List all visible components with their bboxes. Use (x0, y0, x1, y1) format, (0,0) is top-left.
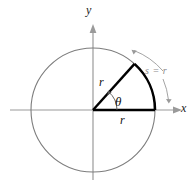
y-axis-label: y (86, 4, 91, 16)
arc-measure-arrow-lower (163, 79, 169, 100)
radian-measure-diagram: y x r r θ s = r (0, 0, 194, 192)
arc-measure-arrowhead-lower-icon (166, 99, 172, 104)
arc-measure-group (132, 50, 172, 104)
axes-group (10, 24, 182, 180)
base-radius-label: r (120, 114, 125, 126)
arc-measure-arrowhead-upper-icon (132, 50, 137, 55)
arc-length-label: s = r (145, 66, 167, 76)
x-axis-label: x (181, 102, 186, 114)
theta-angle-label: θ (115, 95, 121, 108)
y-axis-arrowhead-icon (90, 24, 97, 33)
slant-radius-label: r (99, 76, 104, 88)
diagram-canvas (0, 0, 194, 192)
